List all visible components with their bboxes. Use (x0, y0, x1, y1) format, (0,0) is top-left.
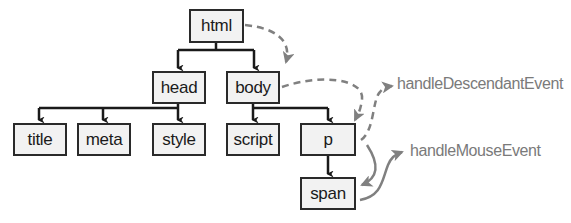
node-span: span (300, 177, 356, 210)
event-arrows (245, 25, 402, 200)
handler-label-mouse: handleMouseEvent (410, 142, 541, 160)
diagram-connectors (0, 0, 571, 223)
dom-tree-diagram: html head body title meta style script p… (0, 0, 571, 223)
node-style: style (152, 123, 206, 156)
node-body: body (226, 71, 280, 104)
node-script: script (226, 123, 280, 156)
node-p: p (300, 123, 356, 156)
node-title: title (13, 123, 67, 156)
node-html: html (189, 9, 244, 43)
node-meta: meta (77, 123, 131, 156)
handler-label-descendant: handleDescendantEvent (397, 75, 563, 93)
node-head: head (152, 71, 206, 104)
